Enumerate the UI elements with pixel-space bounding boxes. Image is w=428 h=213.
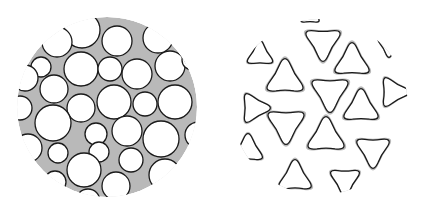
spherical-pore [67, 153, 101, 187]
spherical-pore [158, 85, 192, 119]
spherical-pore [40, 75, 68, 103]
trigonal-pore [259, 193, 281, 212]
spherical-pore [97, 85, 131, 119]
spherical-pore [122, 59, 152, 89]
spherical-pore [112, 116, 142, 146]
spherical-pore-panel [8, 11, 211, 213]
spherical-pore [48, 143, 68, 163]
spherical-pore [119, 148, 143, 172]
spherical-pore [155, 51, 185, 81]
figure-canvas [0, 0, 428, 213]
spherical-pore [64, 52, 98, 86]
trigonal-pore [301, 6, 319, 22]
spherical-pore [35, 105, 71, 141]
spherical-pore [133, 92, 157, 116]
spherical-pore [143, 121, 179, 157]
porous-structure-figure [0, 0, 428, 213]
spherical-pore [85, 123, 107, 145]
spherical-pore [102, 26, 132, 56]
spherical-pore [98, 57, 122, 81]
spherical-pore [67, 94, 95, 122]
trigonal-pore-panel [232, 5, 411, 213]
